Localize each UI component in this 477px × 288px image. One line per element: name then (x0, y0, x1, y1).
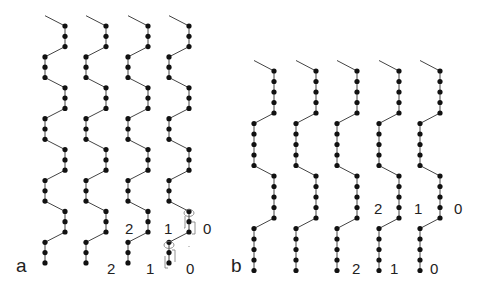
lattice-dot (251, 142, 256, 147)
lattice-dot (396, 100, 401, 105)
lattice-dot (103, 44, 108, 49)
lattice-dot (334, 247, 339, 252)
lattice-dot (145, 34, 150, 39)
lattice-dot (83, 137, 88, 142)
lattice-dot (42, 260, 47, 265)
lattice-dot (376, 236, 381, 241)
diagram-canvas: a b 2 1 0 2 1 0 2 1 0 2 1 0 (0, 0, 477, 288)
panel-a-bottom-label: 0 (186, 260, 194, 277)
lattice-dot (103, 219, 108, 224)
panel-a-label: a (16, 255, 27, 276)
lattice-dot (125, 178, 130, 183)
lattice-dot (334, 257, 339, 262)
lattice-dot (42, 137, 47, 142)
chain-line (420, 61, 440, 271)
lattice-dot (293, 142, 298, 147)
lattice-dot (125, 75, 130, 80)
lattice-dot (62, 147, 67, 152)
lattice-dot (125, 250, 130, 255)
lattice-dot (313, 68, 318, 73)
lattice-dot (186, 106, 191, 111)
lattice-dot (437, 184, 442, 189)
lattice-dot (145, 85, 150, 90)
zigzag-chain (376, 61, 401, 274)
lattice-dot (313, 100, 318, 105)
lattice-dot (354, 215, 359, 220)
lattice-dot (83, 199, 88, 204)
lattice-dot (186, 147, 191, 152)
lattice-dot (251, 268, 256, 273)
lattice-dot (376, 247, 381, 252)
lattice-dot (313, 79, 318, 84)
lattice-dot (186, 96, 191, 101)
lattice-dot (145, 44, 150, 49)
lattice-dot (62, 85, 67, 90)
lattice-dot (354, 184, 359, 189)
lattice-dot (271, 194, 276, 199)
lattice-dot (334, 131, 339, 136)
lattice-dot (166, 75, 171, 80)
lattice-dot (103, 209, 108, 214)
lattice-dot (83, 75, 88, 80)
lattice-dot (396, 110, 401, 115)
lattice-dot (42, 240, 47, 245)
lattice-dot (62, 106, 67, 111)
lattice-dot (313, 110, 318, 115)
lattice-dot (125, 240, 130, 245)
chain-line (379, 61, 399, 271)
lattice-dot (251, 257, 256, 262)
lattice-dot (145, 147, 150, 152)
lattice-dot (83, 126, 88, 131)
lattice-dot (125, 116, 130, 121)
chain-line (296, 61, 316, 271)
lattice-dot (334, 152, 339, 157)
lattice-dot (125, 126, 130, 131)
lattice-dot (396, 194, 401, 199)
lattice-dot (251, 131, 256, 136)
lattice-dot (417, 131, 422, 136)
lattice-dot (437, 215, 442, 220)
lattice-dot (293, 257, 298, 262)
lattice-dot (271, 79, 276, 84)
lattice-dot (334, 163, 339, 168)
lattice-dot (396, 215, 401, 220)
lattice-dot (293, 131, 298, 136)
lattice-dot (354, 173, 359, 178)
lattice-dot (293, 247, 298, 252)
panel-b-mid-label: 1 (414, 200, 422, 217)
lattice-dot (42, 250, 47, 255)
lattice-dot (313, 194, 318, 199)
lattice-dot (62, 96, 67, 101)
lattice-dot (166, 188, 171, 193)
lattice-dot (103, 229, 108, 234)
lattice-dot (376, 121, 381, 126)
lattice-dot (145, 157, 150, 162)
lattice-dot (145, 168, 150, 173)
panel-a-bottom-label: 1 (146, 260, 154, 277)
lattice-dot (125, 188, 130, 193)
lattice-dot (251, 121, 256, 126)
lattice-dot (376, 152, 381, 157)
lattice-dot (166, 178, 171, 183)
panel-b-bottom-label: 2 (352, 260, 360, 277)
lattice-dot (334, 142, 339, 147)
lattice-dot (271, 205, 276, 210)
lattice-dot (417, 247, 422, 252)
lattice-dot (62, 157, 67, 162)
lattice-dot (437, 79, 442, 84)
lattice-dot (42, 116, 47, 121)
lattice-dot (271, 215, 276, 220)
lattice-dot (166, 240, 171, 245)
lattice-dot (376, 226, 381, 231)
lattice-dot (334, 236, 339, 241)
lattice-dot (145, 219, 150, 224)
lattice-dot (145, 106, 150, 111)
zigzag-chain (334, 61, 359, 274)
lattice-dot (313, 215, 318, 220)
lattice-dot (251, 163, 256, 168)
bracket-mark (192, 222, 195, 234)
lattice-dot (125, 199, 130, 204)
lattice-dot (42, 75, 47, 80)
lattice-dot (42, 188, 47, 193)
lattice-dot (186, 44, 191, 49)
